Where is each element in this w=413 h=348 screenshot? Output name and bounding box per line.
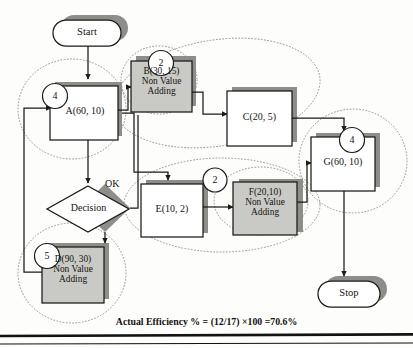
node-stop xyxy=(318,281,380,307)
edge-c-g xyxy=(292,118,344,131)
node-f xyxy=(233,182,297,235)
figure-caption: Actual Efficiency % = (12/17) ×100 =70.6… xyxy=(0,316,413,327)
node-e xyxy=(141,184,203,237)
figure-page: Start A(60, 10) B(30, 15) Non Value Addi… xyxy=(0,0,413,348)
node-decision xyxy=(47,186,129,232)
edge-a-e xyxy=(122,113,168,180)
badge-circle-f xyxy=(203,168,227,192)
edge-b-c xyxy=(192,92,227,114)
badge-circle-g xyxy=(340,128,365,153)
node-c xyxy=(227,91,292,146)
flowchart-canvas xyxy=(0,0,413,348)
badge-circle-b xyxy=(149,51,174,76)
badge-circle-a xyxy=(43,84,68,109)
badge-circle-d xyxy=(35,244,60,269)
node-start xyxy=(53,20,121,46)
page-bottom-rule xyxy=(0,334,413,344)
